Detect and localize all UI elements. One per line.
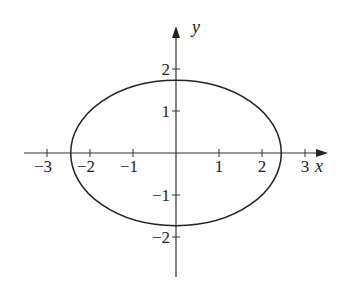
x-axis-label: x xyxy=(314,156,323,176)
axes: −3−2−1123 21−1−2 x y xyxy=(24,17,328,277)
y-tick-label: −2 xyxy=(152,228,170,247)
y-tick-label: 1 xyxy=(162,102,171,121)
y-tick-label: 2 xyxy=(162,60,171,79)
x-tick-label: −2 xyxy=(77,157,95,176)
y-axis-label: y xyxy=(190,17,200,37)
x-tick-label: −1 xyxy=(120,157,138,176)
x-tick-label: 3 xyxy=(301,157,310,176)
y-tick-label: −1 xyxy=(152,186,170,205)
chart-canvas: −3−2−1123 21−1−2 x y xyxy=(0,0,342,283)
x-tick-label: 1 xyxy=(215,157,224,176)
y-axis-arrow-icon xyxy=(172,26,180,38)
x-tick-label: −3 xyxy=(34,157,52,176)
x-tick-label: 2 xyxy=(258,157,267,176)
